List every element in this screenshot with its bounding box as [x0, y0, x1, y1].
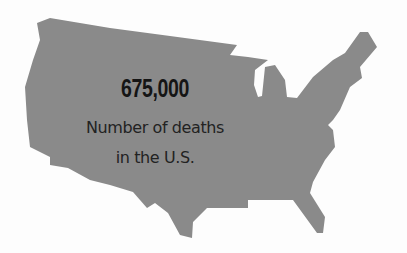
death-count-label: Number of deaths	[55, 118, 255, 137]
death-count-label-region: in the U.S.	[55, 148, 255, 167]
death-count-value: 675,000	[77, 74, 233, 103]
